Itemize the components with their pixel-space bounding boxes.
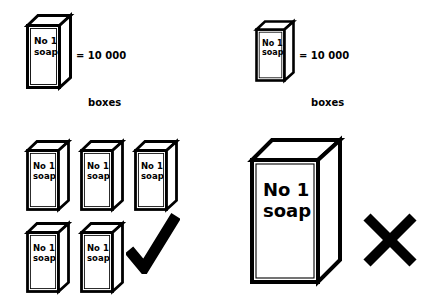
legend-left-equals-line: = 10 000 [76,48,126,64]
legend-right-unit-line: boxes [299,95,349,111]
correct-example-panel: No 1 soap No 1 soap [0,130,220,307]
soap-box-oversized: No 1 soap [250,138,342,286]
diagram-canvas: No 1 soap = 10 000 boxes No 1 soap = 10 … [0,0,440,307]
legend-left-unit-line: boxes [76,95,126,111]
soap-box-legend-left: No 1 soap [26,14,72,90]
legend-right-text: = 10 000 boxes [299,17,349,141]
cross-mark-icon [363,213,417,267]
legend-right-equals-line: = 10 000 [299,48,349,64]
soap-box-unit: No 1 soap [80,222,124,294]
legend-left-panel: No 1 soap = 10 000 boxes [0,0,220,120]
soap-box-unit: No 1 soap [80,140,124,212]
soap-box-unit: No 1 soap [134,140,178,212]
soap-box-unit: No 1 soap [26,222,70,294]
incorrect-example-panel: No 1 soap [220,130,440,307]
check-mark-icon [126,212,180,274]
legend-right-panel: No 1 soap = 10 000 boxes [220,0,440,120]
soap-box-legend-right: No 1 soap [255,20,295,82]
soap-box-unit: No 1 soap [26,140,70,212]
legend-left-text: = 10 000 boxes [76,17,126,141]
